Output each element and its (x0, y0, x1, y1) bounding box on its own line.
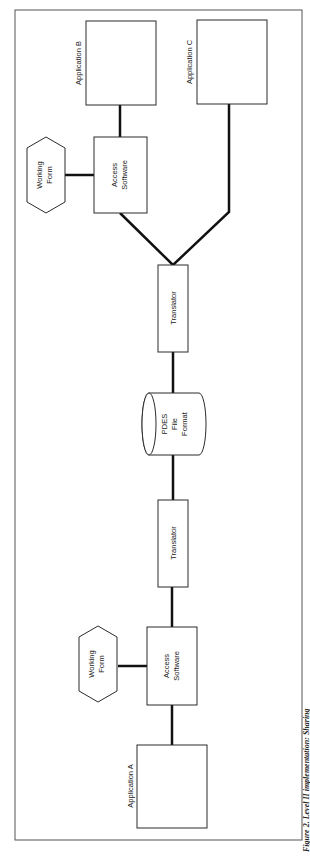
pdes-line1: PDES (160, 414, 169, 434)
node-access-software-b: Access Software (94, 137, 147, 213)
node-working-form-a: Working Form (79, 626, 117, 702)
node-access-software-a: Access Software (147, 627, 197, 705)
node-working-form-b: Working Form (27, 137, 65, 213)
application-c-label: Application C (185, 39, 194, 84)
translator-1-label: Translator (169, 526, 178, 560)
node-translator-2: Translator (158, 265, 188, 352)
access-b-line1: Access (110, 163, 119, 187)
pdes-line2: File (170, 418, 179, 430)
node-application-b: Application B (74, 21, 156, 105)
diagram-canvas: Application B Application C Access Softw… (0, 0, 310, 856)
working-b-line2: Form (45, 166, 54, 184)
node-application-a: Application A (126, 745, 207, 828)
working-a-line2: Form (97, 655, 106, 673)
access-a-line1: Access (162, 654, 171, 678)
pdes-line3: Format (180, 411, 189, 436)
figure-caption: Figure 2. Level II implementation: Shari… (302, 708, 310, 853)
access-b-line2: Software (120, 160, 129, 190)
access-a-line2: Software (172, 651, 181, 681)
application-a-label: Application A (126, 764, 135, 807)
translator-2-label: Translator (169, 291, 178, 325)
node-application-c: Application C (185, 20, 267, 104)
working-b-line1: Working (35, 161, 44, 188)
node-translator-1: Translator (158, 500, 188, 587)
application-b-label: Application B (74, 41, 83, 85)
working-a-line1: Working (87, 650, 96, 677)
node-pdes-file-format: PDES File Format (142, 393, 206, 455)
